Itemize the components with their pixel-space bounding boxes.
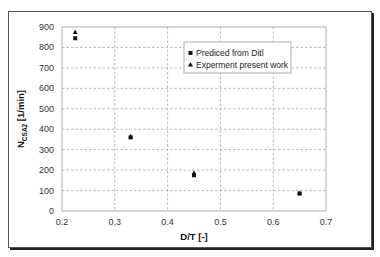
x-axis-title: D/T [-]: [180, 231, 207, 242]
y-axis-ticks: 0100200300400500600700800900: [39, 22, 54, 216]
y-axis-title: NCSA2 [1/min]: [15, 90, 28, 148]
y-axis-title-subscript: CSA2: [21, 123, 28, 141]
x-tick-label: 0.6: [267, 217, 280, 227]
x-tick-label: 0.3: [109, 217, 122, 227]
y-tick-label: 100: [39, 186, 54, 196]
x-tick-label: 0.5: [214, 217, 227, 227]
y-tick-label: 200: [39, 165, 54, 175]
y-tick-label: 400: [39, 124, 54, 134]
scatter-chart: 0100200300400500600700800900 0.20.30.40.…: [0, 0, 380, 257]
y-axis-title-unit: [1/min]: [15, 90, 26, 124]
data-point-experiment: [192, 171, 197, 175]
x-tick-label: 0.2: [56, 217, 69, 227]
y-tick-label: 600: [39, 83, 54, 93]
y-tick-label: 700: [39, 63, 54, 73]
x-axis-ticks: 0.20.30.40.50.60.7: [56, 217, 333, 227]
y-tick-label: 800: [39, 42, 54, 52]
x-tick-label: 0.7: [320, 217, 333, 227]
y-tick-label: 300: [39, 145, 54, 155]
legend: Prediced from Ditl Experment present wor…: [184, 42, 291, 73]
data-point-experiment: [73, 30, 78, 34]
data-point-predicted: [73, 36, 77, 40]
x-tick-label: 0.4: [161, 217, 174, 227]
legend-label-experiment: Experment present work: [196, 60, 289, 70]
y-tick-label: 900: [39, 22, 54, 32]
y-tick-label: 500: [39, 104, 54, 114]
legend-marker-square: [189, 51, 193, 55]
y-tick-label: 0: [49, 206, 54, 216]
legend-label-predicted: Prediced from Ditl: [196, 48, 264, 58]
